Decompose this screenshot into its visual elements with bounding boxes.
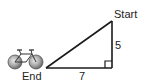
hypotenuse (46, 21, 112, 68)
triangle-diagram: Start 5 7 End (0, 0, 145, 84)
horizontal-leg-label: 7 (79, 70, 85, 82)
vertical-leg-label: 5 (115, 39, 121, 51)
right-angle-marker (105, 61, 112, 68)
start-label: Start (114, 8, 137, 20)
bicycle-icon (8, 50, 43, 69)
end-label: End (22, 70, 42, 82)
